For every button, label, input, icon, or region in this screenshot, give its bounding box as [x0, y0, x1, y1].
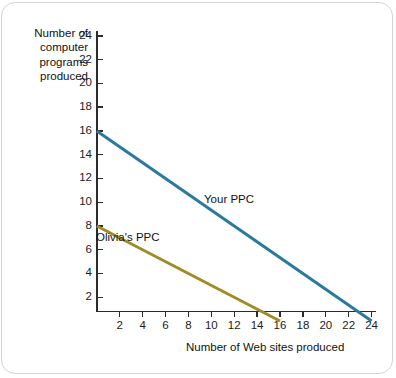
chart-canvas: Number of computer programs produced 246… [0, 0, 396, 378]
x-axis-title: Number of Web sites produced [186, 341, 344, 353]
olivias-ppc-label: Olivia's PPC [96, 231, 160, 243]
series-layer [0, 0, 396, 378]
plot-area: Number of computer programs produced 246… [0, 0, 396, 378]
your-ppc-label: Your PPC [204, 193, 254, 205]
your-ppc-line [97, 131, 372, 321]
